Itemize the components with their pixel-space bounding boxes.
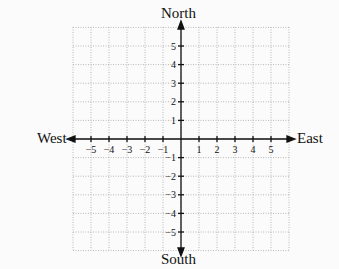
x-tick-label: −3 — [122, 144, 133, 155]
y-tick-label: 2 — [171, 96, 176, 107]
y-tick-label: 5 — [171, 41, 176, 52]
west-label: West — [37, 130, 67, 147]
x-tick-label: 4 — [251, 144, 256, 155]
x-tick-label: 1 — [197, 144, 202, 155]
x-tick-label: −4 — [104, 144, 115, 155]
y-tick-label: 3 — [171, 78, 176, 89]
x-tick-label: 2 — [215, 144, 220, 155]
y-tick-label: 1 — [171, 115, 176, 126]
x-tick-label: −5 — [86, 144, 97, 155]
east-label: East — [297, 130, 323, 147]
y-tick-label: −2 — [165, 171, 176, 182]
x-tick-label: −2 — [140, 144, 151, 155]
y-tick-label: −5 — [165, 227, 176, 238]
x-tick-label: 5 — [269, 144, 274, 155]
y-tick-label: −4 — [165, 208, 176, 219]
y-tick-label: −1 — [165, 152, 176, 163]
x-tick-label: 3 — [233, 144, 238, 155]
y-tick-label: 4 — [171, 59, 176, 70]
y-tick-label: −3 — [165, 189, 176, 200]
north-label: North — [161, 5, 196, 22]
south-label: South — [161, 251, 196, 268]
